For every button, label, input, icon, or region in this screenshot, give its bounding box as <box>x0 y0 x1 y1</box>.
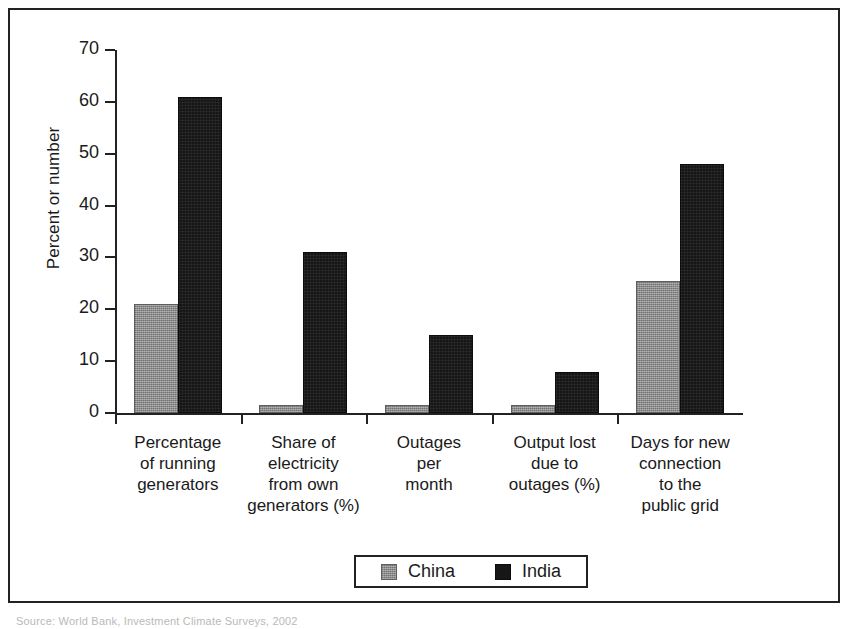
y-axis-tick-label: 40 <box>79 194 99 215</box>
bar-china-0 <box>134 304 178 413</box>
legend-swatch-china <box>381 564 397 580</box>
y-axis-tick-label: 70 <box>79 38 99 59</box>
bar-india-1 <box>303 252 347 413</box>
bar-india-2 <box>429 335 473 413</box>
x-axis-separator <box>241 413 243 424</box>
y-axis-tick-mark <box>105 49 115 51</box>
legend-label: China <box>408 561 455 582</box>
y-axis-tick-label: 30 <box>79 245 99 266</box>
x-axis-category-label: Days for new connection to the public gr… <box>603 432 757 516</box>
y-axis-tick-mark <box>105 256 115 258</box>
x-axis-line <box>115 413 743 415</box>
y-axis-tick-mark <box>105 205 115 207</box>
y-axis-tick-mark <box>105 308 115 310</box>
x-axis-separator <box>617 413 619 424</box>
legend-label: India <box>522 561 561 582</box>
y-axis-line <box>115 50 117 413</box>
y-axis-tick-mark <box>105 153 115 155</box>
x-axis-separator <box>115 413 117 424</box>
bar-china-1 <box>259 405 303 413</box>
bar-china-4 <box>636 281 680 413</box>
y-axis-tick-label: 50 <box>79 142 99 163</box>
bar-chart: Percent or number 010203040506070 Percen… <box>10 10 842 605</box>
bar-china-3 <box>511 405 555 413</box>
y-axis-title: Percent or number <box>44 88 64 308</box>
y-axis-tick-mark <box>105 101 115 103</box>
chart-legend: ChinaIndia <box>354 555 588 588</box>
source-caption: Source: World Bank, Investment Climate S… <box>16 615 298 629</box>
y-axis-tick-label: 20 <box>79 297 99 318</box>
y-axis-tick-label: 10 <box>79 349 99 370</box>
legend-item-china: China <box>381 561 455 582</box>
x-axis-separator <box>366 413 368 424</box>
bar-india-0 <box>178 97 222 413</box>
y-axis-tick-mark <box>105 412 115 414</box>
bar-india-3 <box>555 372 599 413</box>
bar-india-4 <box>680 164 724 413</box>
bar-china-2 <box>385 405 429 413</box>
legend-swatch-india <box>495 564 511 580</box>
legend-item-india: India <box>495 561 561 582</box>
y-axis-tick-label: 0 <box>89 401 99 422</box>
y-axis-tick-label: 60 <box>79 90 99 111</box>
y-axis-tick-mark <box>105 360 115 362</box>
x-axis-separator <box>492 413 494 424</box>
plot-area: 010203040506070 Percentage of running ge… <box>115 50 743 413</box>
figure-frame: Percent or number 010203040506070 Percen… <box>8 8 840 603</box>
